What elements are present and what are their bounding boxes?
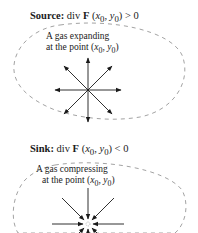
caption-line: A gas compressing (36, 164, 115, 175)
source-arrows (55, 58, 121, 122)
expr-rel: ) > 0 (119, 10, 139, 21)
source-title: Source: div F (x0, y0) > 0 (30, 10, 139, 24)
caption-text: ) (115, 42, 118, 52)
expr-rel: ) < 0 (109, 143, 129, 154)
vector-f: F (83, 10, 89, 21)
div-text: div (67, 10, 83, 21)
caption-line: at the point (x0, y0) (36, 175, 115, 189)
source-caption: A gas expanding at the point (x0, y0) (46, 31, 119, 56)
sink-title: Sink: div F (x0, y0) < 0 (30, 143, 128, 157)
vector-f: F (73, 143, 79, 154)
sink-caption: A gas compressing at the point (x0, y0) (36, 164, 115, 189)
expr-args: (x (82, 143, 90, 154)
caption-line: A gas expanding (46, 31, 119, 42)
caption-line: at the point (x0, y0) (46, 42, 119, 56)
caption-text: at the point (x (46, 42, 99, 52)
sink-point (86, 222, 90, 226)
source-label: Source: (30, 10, 64, 21)
expr-mid: , y (104, 10, 114, 21)
div-text: div (57, 143, 73, 154)
caption-text: at the point (x (42, 175, 95, 185)
caption-text: ) (111, 175, 114, 185)
expr-mid: , y (94, 143, 104, 154)
sink-label: Sink: (30, 143, 54, 154)
expr-args: (x (92, 10, 100, 21)
